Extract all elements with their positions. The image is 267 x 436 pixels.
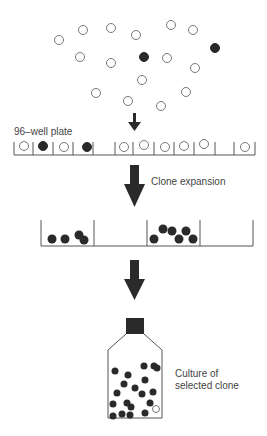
culture-label-line2: selected clone [175, 380, 239, 392]
expansion-label: Clone expansion [151, 176, 226, 188]
flask-cap [126, 318, 144, 334]
plate-label: 96–well plate [14, 126, 72, 138]
arrow-down-icon [124, 165, 145, 207]
expanded-clones [48, 225, 198, 245]
arrow-down-icon [124, 260, 145, 300]
cell-suspension [55, 21, 220, 111]
expansion-wells [41, 220, 253, 246]
flask-cells [110, 363, 161, 420]
well-plate-strip [14, 142, 255, 155]
arrow-down-icon [128, 113, 141, 131]
diagram-canvas [0, 0, 267, 436]
culture-label-line1: Culture of [175, 368, 218, 380]
